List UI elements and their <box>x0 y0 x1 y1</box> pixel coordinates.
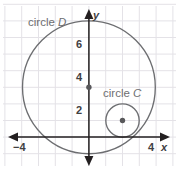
circle-D-center-dot <box>86 85 91 90</box>
circle-C-label-word: circle <box>103 87 133 99</box>
y-tick-6: 6 <box>76 39 82 50</box>
circle-C-label: circle C <box>103 88 141 100</box>
y-axis-label: y <box>93 10 99 21</box>
x-axis-label: x <box>161 142 167 153</box>
circle-D-label-letter: D <box>58 16 66 28</box>
figure-canvas: circle D circle C 6 4 2 −4 4 x y <box>0 0 178 171</box>
circle-D-label: circle D <box>28 17 66 29</box>
circle-C-label-letter: C <box>133 87 141 99</box>
circle-D-label-word: circle <box>28 16 58 28</box>
y-tick-4: 4 <box>76 72 82 83</box>
circle-C-center-dot <box>120 118 125 123</box>
y-tick-2: 2 <box>76 105 82 116</box>
x-tick-4: 4 <box>148 142 154 153</box>
x-tick-minus-4: −4 <box>13 142 26 153</box>
